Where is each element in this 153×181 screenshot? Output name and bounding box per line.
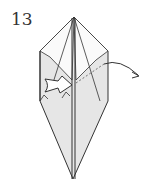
arrow-curve: [104, 62, 138, 75]
origami-diagram: [0, 0, 153, 181]
